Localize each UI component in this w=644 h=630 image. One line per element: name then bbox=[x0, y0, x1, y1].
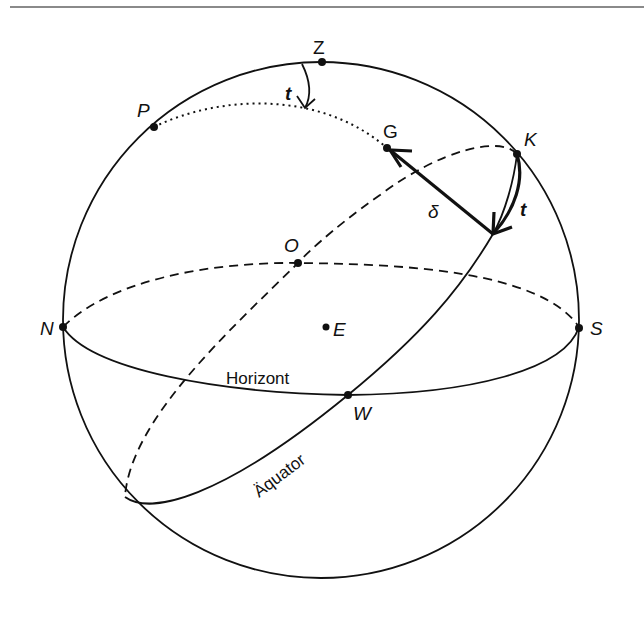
label-equator: Äquator bbox=[250, 450, 309, 501]
equator-back-arc bbox=[125, 146, 517, 497]
point-z bbox=[318, 58, 326, 66]
point-w bbox=[344, 391, 352, 399]
label-z: Z bbox=[313, 37, 325, 58]
label-w: W bbox=[353, 403, 373, 424]
hour-circle-dotted bbox=[154, 103, 387, 148]
horizon-front-arc bbox=[63, 327, 579, 395]
label-delta: δ bbox=[428, 201, 439, 222]
sphere-outline bbox=[63, 62, 579, 578]
label-k: K bbox=[524, 129, 538, 150]
horizon-back-arc bbox=[63, 263, 579, 327]
point-g bbox=[383, 144, 391, 152]
point-o bbox=[294, 259, 302, 267]
point-s bbox=[575, 324, 583, 332]
label-s: S bbox=[590, 318, 603, 339]
point-n bbox=[59, 323, 67, 331]
point-k bbox=[513, 150, 521, 158]
label-o: O bbox=[284, 235, 299, 256]
point-p bbox=[150, 123, 158, 131]
label-g: G bbox=[383, 121, 398, 142]
label-n: N bbox=[40, 318, 54, 339]
declination-arrow bbox=[390, 150, 493, 234]
arrowhead-icon bbox=[297, 96, 315, 108]
label-e: E bbox=[333, 319, 346, 340]
label-horizon: Horizont bbox=[226, 369, 290, 388]
celestial-sphere-diagram: Z P t G K δ t O N S E W Horizont Äquator bbox=[0, 0, 644, 630]
point-e bbox=[323, 324, 330, 331]
label-p: P bbox=[137, 100, 150, 121]
hour-angle-arc-top bbox=[302, 64, 309, 108]
label-t-top: t bbox=[285, 83, 292, 104]
label-t-right: t bbox=[520, 199, 527, 220]
